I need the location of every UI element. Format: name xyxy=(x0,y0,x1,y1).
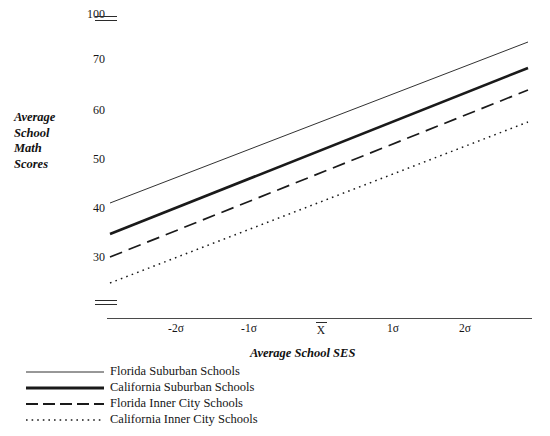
legend-label: California Inner City Schools xyxy=(110,411,258,427)
chart-figure: 100 70 60 50 40 30 Average School Math S… xyxy=(0,0,550,436)
legend-swatch-solid-thick xyxy=(26,379,104,395)
x-tick-text: 1σ xyxy=(387,322,399,334)
x-axis-line xyxy=(107,318,532,319)
x-axis-title: Average School SES xyxy=(250,346,450,361)
series-line-california-suburban xyxy=(110,68,528,234)
x-tick-text: -2σ xyxy=(168,322,184,334)
series-line-california-inner-city xyxy=(110,122,528,283)
legend-swatch-solid-thin xyxy=(26,363,104,379)
chart-legend: Florida Suburban Schools California Subu… xyxy=(26,363,286,427)
mean-overbar-icon xyxy=(316,322,327,323)
x-tick-label: 2σ xyxy=(435,322,495,335)
legend-item-florida-inner-city: Florida Inner City Schools xyxy=(26,395,286,411)
x-tick-label: -2σ xyxy=(146,322,206,335)
legend-label: Florida Inner City Schools xyxy=(110,395,243,411)
legend-swatch-dotted xyxy=(26,411,104,427)
x-tick-label-mean: X xyxy=(291,322,351,337)
legend-item-california-suburban: California Suburban Schools xyxy=(26,379,286,395)
series-line-florida-suburban xyxy=(110,42,528,203)
series-line-florida-inner-city xyxy=(110,90,528,257)
x-tick-text: -1σ xyxy=(241,322,257,334)
x-tick-label: -1σ xyxy=(219,322,279,335)
x-tick-text: X xyxy=(317,324,325,336)
legend-swatch-dashed xyxy=(26,395,104,411)
legend-label: Florida Suburban Schools xyxy=(110,363,240,379)
legend-item-florida-suburban: Florida Suburban Schools xyxy=(26,363,286,379)
legend-item-california-inner-city: California Inner City Schools xyxy=(26,411,286,427)
x-tick-label: 1σ xyxy=(363,322,423,335)
legend-label: California Suburban Schools xyxy=(110,379,254,395)
x-tick-text: 2σ xyxy=(459,322,471,334)
